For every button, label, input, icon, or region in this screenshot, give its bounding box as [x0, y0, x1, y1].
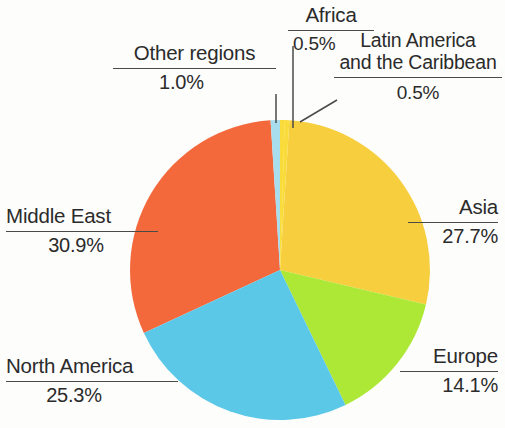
callout-other-regions-value: 1.0%: [113, 71, 276, 93]
callout-other-regions: Other regions 1.0%: [113, 42, 276, 93]
callout-europe-label: Europe: [400, 345, 498, 368]
callout-other-regions-rule: [113, 68, 276, 69]
callout-north-america: North America 25.3%: [6, 355, 178, 406]
callout-europe-value: 14.1%: [400, 374, 498, 396]
callout-latin-america-value: 0.5%: [334, 80, 502, 103]
callout-europe-rule: [400, 371, 498, 372]
callout-middle-east-value: 30.9%: [6, 234, 158, 256]
callout-europe: Europe 14.1%: [400, 345, 498, 396]
callout-latin-america-label-line1: Latin America: [334, 30, 502, 52]
leader-lines: [276, 46, 337, 128]
callout-middle-east: Middle East 30.9%: [6, 205, 158, 256]
callout-asia-rule: [408, 222, 498, 223]
callout-middle-east-label: Middle East: [6, 205, 158, 228]
callout-asia-label: Asia: [408, 196, 498, 219]
callout-other-regions-label: Other regions: [113, 42, 276, 65]
callout-africa-label: Africa: [288, 4, 374, 27]
callout-latin-america: Latin America and the Caribbean 0.5%: [334, 30, 502, 103]
callout-asia: Asia 27.7%: [408, 196, 498, 247]
pie-chart-figure: Other regions 1.0% Africa 0.5% Latin Ame…: [0, 0, 505, 428]
callout-latin-america-rule: [334, 77, 502, 78]
callout-middle-east-rule: [6, 231, 158, 232]
callout-north-america-label: North America: [6, 355, 178, 378]
callout-north-america-value: 25.3%: [6, 384, 178, 406]
callout-north-america-rule: [6, 381, 178, 382]
callout-latin-america-label-line2: and the Caribbean: [334, 52, 502, 74]
leader-line-latin-america: [300, 100, 337, 122]
callout-asia-value: 27.7%: [408, 225, 498, 247]
